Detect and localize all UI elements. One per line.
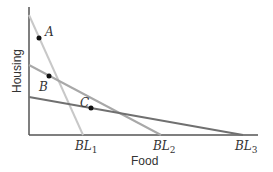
point-a xyxy=(37,36,42,41)
budget-line-diagram: A B C BL1 BL2 BL3 Food Housing xyxy=(0,0,273,172)
point-a-label: A xyxy=(44,25,54,39)
x-axis-label: Food xyxy=(131,154,158,168)
bl1-label: BL1 xyxy=(74,139,98,155)
point-b xyxy=(47,74,52,79)
bl2-label: BL2 xyxy=(152,139,176,155)
budget-line-1 xyxy=(29,15,83,135)
point-c-label: C xyxy=(80,96,89,110)
bl3-label: BL3 xyxy=(234,139,258,155)
y-axis-label: Housing xyxy=(10,49,24,93)
budget-line-3 xyxy=(29,97,243,135)
point-b-label: B xyxy=(38,80,48,94)
point-c xyxy=(89,106,94,111)
